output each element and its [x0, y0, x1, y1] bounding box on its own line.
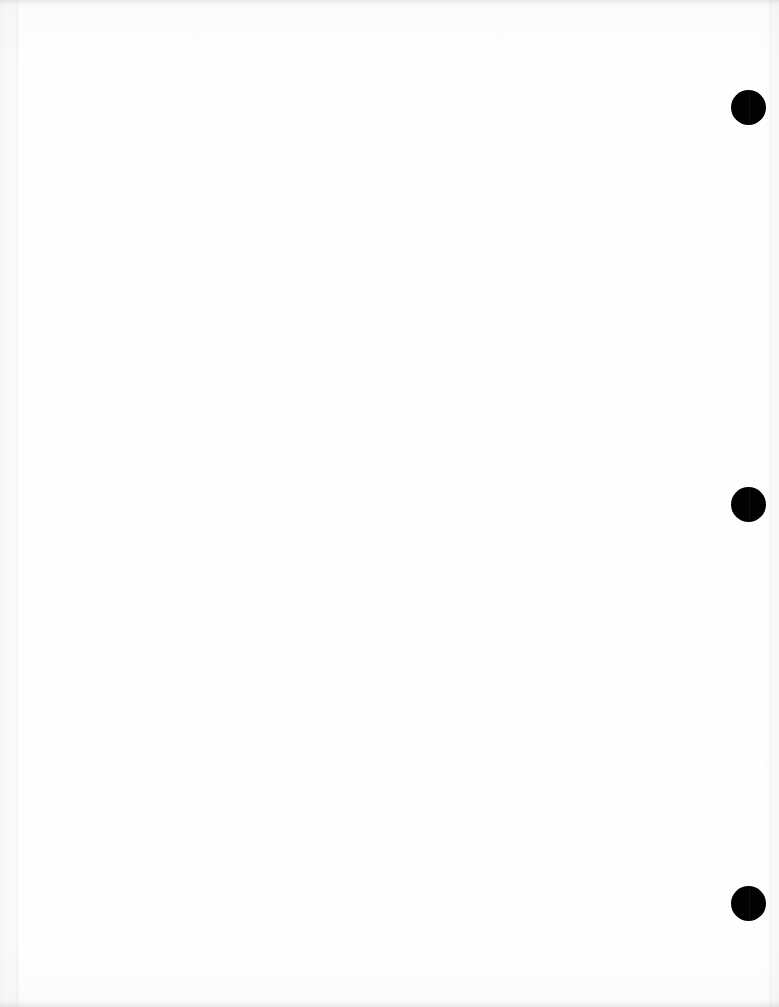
scan-edge-right [765, 0, 779, 1007]
scanned-page [0, 0, 779, 1007]
punch-mark-top [731, 90, 766, 125]
scan-edge-top [0, 0, 779, 7]
scan-edge-left [0, 0, 20, 1007]
punch-mark-middle [731, 487, 766, 522]
scan-rule-left [17, 0, 18, 1007]
scan-edge-bottom [0, 998, 779, 1007]
punch-mark-bottom [731, 886, 766, 921]
paper-texture [0, 0, 779, 1007]
scan-rule-right [771, 0, 772, 1007]
